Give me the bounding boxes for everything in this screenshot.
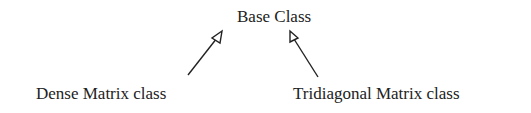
arrow-tridiagonal-to-base — [290, 31, 318, 77]
inheritance-arrows — [0, 0, 531, 113]
arrow-dense-to-base — [188, 31, 222, 75]
